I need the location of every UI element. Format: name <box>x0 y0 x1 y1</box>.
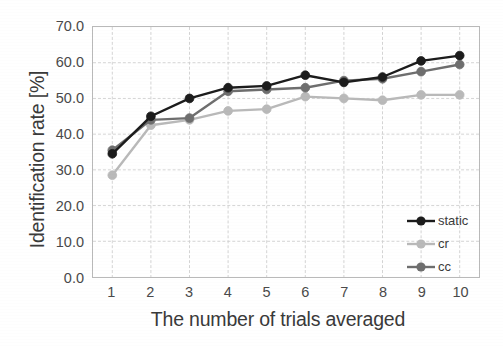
data-point <box>224 107 233 116</box>
data-point <box>301 71 310 80</box>
data-point <box>378 73 387 82</box>
x-tick-label: 10 <box>441 284 481 300</box>
legend-marker-icon <box>406 260 436 274</box>
series-static <box>108 51 464 158</box>
data-point <box>108 149 117 158</box>
series-cr <box>108 90 464 179</box>
legend-marker-icon <box>406 214 436 228</box>
data-point <box>378 96 387 105</box>
x-tick-label: 6 <box>285 284 325 300</box>
data-point <box>147 112 156 121</box>
legend-item-cr: cr <box>404 233 480 255</box>
data-point <box>262 82 271 91</box>
data-point <box>340 78 349 87</box>
series-cc <box>108 60 464 154</box>
legend-label: cc <box>438 259 451 274</box>
x-tick-label: 5 <box>247 284 287 300</box>
x-tick-label: 8 <box>363 284 403 300</box>
x-axis-title: The number of trials averaged <box>88 308 468 331</box>
data-point <box>417 67 426 76</box>
legend-marker-icon <box>406 237 436 251</box>
data-point <box>455 60 464 69</box>
data-point <box>417 57 426 66</box>
data-point <box>224 83 233 92</box>
data-point <box>301 92 310 101</box>
legend-label: static <box>438 213 468 228</box>
chart-figure: Identification rate [%] 0.010.020.030.04… <box>0 0 503 346</box>
data-point <box>301 83 310 92</box>
x-tick-label: 2 <box>130 284 170 300</box>
data-point <box>262 105 271 114</box>
data-point <box>417 90 426 99</box>
data-point <box>340 94 349 103</box>
legend-item-cc: cc <box>404 256 480 278</box>
x-tick-label: 3 <box>169 284 209 300</box>
x-tick-label: 4 <box>208 284 248 300</box>
chart-legend: staticcrcc <box>404 210 480 278</box>
x-tick-label: 7 <box>324 284 364 300</box>
data-point <box>185 94 194 103</box>
x-tick-label: 9 <box>402 284 442 300</box>
data-point <box>108 171 117 180</box>
x-tick-label: 1 <box>91 284 131 300</box>
data-point <box>185 114 194 123</box>
data-point <box>455 51 464 60</box>
data-point <box>455 90 464 99</box>
legend-label: cr <box>438 236 449 251</box>
legend-item-static: static <box>404 210 480 232</box>
